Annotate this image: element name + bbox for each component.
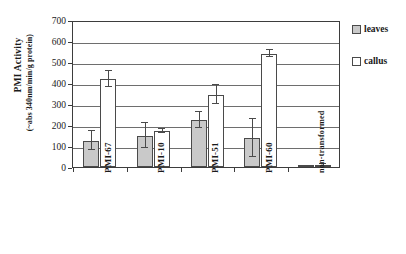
x-tick-mark xyxy=(73,168,74,172)
error-bar-cap xyxy=(212,103,219,104)
x-tick-mark xyxy=(127,168,128,172)
error-bar-cap xyxy=(88,130,95,131)
error-bar xyxy=(108,71,109,87)
error-bar-cap xyxy=(195,111,202,112)
error-bar-cap xyxy=(266,49,273,50)
error-bar-cap xyxy=(158,132,165,133)
y-tick-label: 200 xyxy=(40,121,66,131)
y-tick-mark xyxy=(68,168,72,169)
x-tick-mark xyxy=(234,168,235,172)
x-tick-mark xyxy=(181,168,182,172)
y-tick-label: 0 xyxy=(40,163,66,173)
error-bar-cap xyxy=(266,56,273,57)
error-bar-cap xyxy=(105,86,112,87)
pmi-activity-bar-chart: PMI Activity (~abs 340nm/min/g protein) … xyxy=(0,0,406,254)
y-tick-label: 100 xyxy=(40,142,66,152)
legend-label-leaves: leaves xyxy=(364,24,388,34)
y-axis-subtitle: (~abs 340nm/min/g protein) xyxy=(25,18,34,148)
error-bar xyxy=(145,123,146,147)
error-bar-cap xyxy=(212,84,219,85)
y-tick-label: 300 xyxy=(40,100,66,110)
error-bar xyxy=(216,85,217,104)
x-axis-label-PMI-67: PMI-67 xyxy=(103,142,113,173)
leaves-swatch-icon xyxy=(352,25,361,34)
error-bar xyxy=(252,119,253,157)
error-bar xyxy=(91,131,92,150)
error-bar-cap xyxy=(249,156,256,157)
y-tick-label: 500 xyxy=(40,58,66,68)
x-axis-label-PMI-60: PMI-60 xyxy=(264,142,274,173)
gridline xyxy=(73,64,339,65)
gridline xyxy=(73,43,339,44)
error-bar-cap xyxy=(249,118,256,119)
chart-legend: leaves callus xyxy=(352,24,406,88)
error-bar-cap xyxy=(105,70,112,71)
x-axis-label-PMI-10: PMI-10 xyxy=(156,142,166,173)
y-tick-label: 700 xyxy=(40,16,66,26)
error-bar-cap xyxy=(195,127,202,128)
error-bar-cap xyxy=(141,147,148,148)
y-axis-title: PMI Activity xyxy=(13,5,23,125)
error-bar-cap xyxy=(141,122,148,123)
callus-swatch-icon xyxy=(352,57,361,66)
y-tick-label: 400 xyxy=(40,79,66,89)
error-bar-cap xyxy=(158,128,165,129)
error-bar-cap xyxy=(302,165,309,166)
error-bar xyxy=(199,112,200,128)
x-axis-label-PMI-51: PMI-51 xyxy=(210,142,220,173)
legend-label-callus: callus xyxy=(364,56,387,66)
x-tick-mark xyxy=(288,168,289,172)
legend-item-callus: callus xyxy=(352,56,406,66)
y-tick-label: 600 xyxy=(40,37,66,47)
x-axis-label-non-transformed: non-transformed xyxy=(317,110,326,173)
error-bar-cap xyxy=(88,149,95,150)
legend-item-leaves: leaves xyxy=(352,24,406,34)
